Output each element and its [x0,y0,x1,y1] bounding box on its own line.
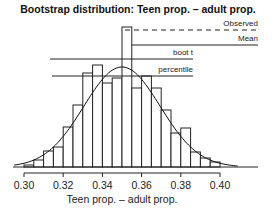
histogram-bar [63,127,73,167]
x-tick-label: 0.38 [171,179,192,191]
legend-mean-label: Mean [238,34,258,43]
legend-percentile-label: percentile [158,65,193,74]
histogram-bar [112,78,122,167]
histogram-bar [161,110,171,167]
x-tick-label: 0.30 [14,179,35,191]
x-tick-label: 0.40 [210,179,231,191]
legend: Observed Mean boot t percentile [50,19,258,76]
x-tick-label: 0.36 [131,179,152,191]
histogram-bar [132,88,142,167]
histogram-bar [73,105,83,167]
legend-observed-label: Observed [223,19,258,28]
histogram-bar [181,128,191,167]
x-axis-label: Teen prop. – adult prop. [67,193,178,205]
histogram-bar [102,83,112,167]
x-tick-label: 0.34 [92,179,113,191]
chart-title: Bootstrap distribution: Teen prop. – adu… [20,3,256,15]
x-tick-label: 0.32 [53,179,74,191]
bootstrap-histogram-chart: Bootstrap distribution: Teen prop. – adu… [0,0,276,216]
histogram-bar [34,160,44,167]
histogram-bar [171,133,181,167]
histogram-bar [53,147,63,167]
histogram-bar [83,73,93,167]
legend-boot-t-label: boot t [173,48,194,57]
histogram-bar [122,27,132,167]
x-axis: 0.300.320.340.360.380.40 [14,173,231,191]
